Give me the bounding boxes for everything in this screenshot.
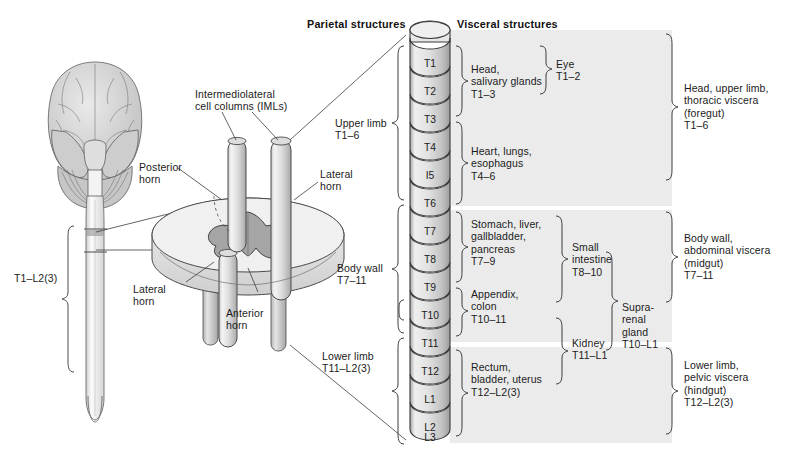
visceral-stomach-liver-gallbladder-pancreas: Stomach, liver, gallbladder, pancreas T7…	[471, 218, 559, 268]
summary-midgut: Body wall, abdominal viscera (midgut) T7…	[684, 232, 794, 282]
segment-label-T1: T1	[410, 59, 450, 69]
brace-appendix-colon	[456, 288, 468, 336]
segment-label-L1: L1	[410, 395, 450, 405]
segment-label-T3: T3	[410, 115, 450, 125]
brace-t11-tick	[399, 300, 404, 320]
visceral-suprarenal-gland: Supra- renal gland T10–L1	[622, 301, 678, 351]
segment-label-T12: T12	[410, 367, 450, 377]
lateral-horn-label-right: Lateral horn	[320, 168, 380, 193]
summary-hindgut: Lower limb, pelvic viscera (hindgut) T12…	[684, 359, 794, 409]
segment-label-T11: T11	[410, 339, 450, 349]
brace-heart-lungs	[456, 122, 468, 204]
anterior-horn-label: Anterior horn	[226, 307, 296, 332]
segment-label-T9: T9	[410, 283, 450, 293]
parietal-group-body-wall: Body wall T7–11	[337, 262, 403, 287]
segment-label-L3: L3	[410, 433, 450, 443]
segment-label-T2: T2	[410, 87, 450, 97]
brace-foregut	[666, 34, 678, 180]
iml-label: Intermediolateral cell columns (IMLs)	[195, 88, 345, 113]
brace-stomach-liver	[456, 212, 468, 282]
parietal-group-upper-limb: Upper limb T1–6	[335, 117, 401, 142]
segment-label-T5: I5	[410, 171, 450, 181]
cord-extent-label: T1–L2(3)	[14, 272, 72, 284]
posterior-horn-label: Posterior horn	[139, 161, 209, 186]
visceral-head-salivary: Head, salivary glands T1–3	[471, 63, 557, 100]
brace-hindgut	[666, 348, 678, 434]
brace-midgut	[666, 212, 678, 302]
visceral-rectum-bladder-uterus: Rectum, bladder, uterus T12–L2(3)	[471, 361, 567, 398]
figure-root: Parietal structures Visceral structures …	[0, 0, 796, 454]
braces-svg	[0, 0, 796, 454]
segment-label-T7: T7	[410, 227, 450, 237]
brace-rectum-bladder	[456, 350, 468, 436]
visceral-appendix-colon: Appendix, colon T10–11	[471, 288, 555, 325]
segment-label-T10: T10	[410, 311, 450, 321]
summary-foregut: Head, upper limb, thoracic viscera (fore…	[684, 82, 794, 132]
visceral-heart-lungs-esophagus: Heart, lungs, esophagus T4–6	[471, 145, 557, 182]
header-visceral-structures: Visceral structures	[457, 18, 558, 30]
segment-label-T4: T4	[410, 143, 450, 153]
segment-label-T8: T8	[410, 255, 450, 265]
segment-label-T6: T6	[410, 199, 450, 209]
visceral-eye: Eye T1–2	[556, 58, 616, 83]
parietal-group-lower-limb: Lower limb T11–L2(3)	[322, 350, 402, 375]
visceral-small-intestine: Small intestine T8–10	[572, 241, 634, 278]
brace-head-salivary	[456, 46, 468, 116]
lateral-horn-label-lower: Lateral horn	[133, 283, 193, 308]
header-parietal-structures: Parietal structures	[307, 18, 406, 30]
